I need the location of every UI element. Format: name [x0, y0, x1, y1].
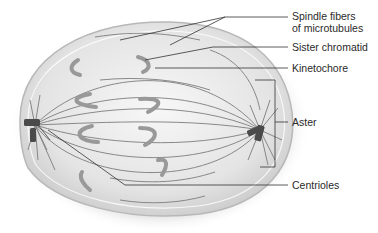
label-spindle-line2: of microtubules [292, 22, 363, 34]
mitosis-diagram [0, 0, 378, 233]
label-spindle-fibers: Spindle fibers of microtubules [292, 10, 363, 34]
label-centrioles: Centrioles [292, 179, 339, 191]
label-spindle-line1: Spindle fibers [292, 10, 363, 22]
label-sister-chromatid: Sister chromatid [292, 41, 368, 53]
label-kinetochore: Kinetochore [292, 62, 348, 74]
cell [10, 19, 310, 233]
label-aster: Aster [292, 116, 317, 128]
